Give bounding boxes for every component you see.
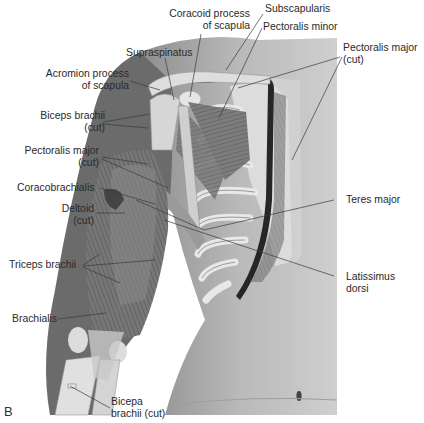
label-line: Acromion process (30, 68, 129, 80)
label-pectoralis-major-cut-right: Pectoralis major (cut) (343, 42, 418, 66)
label-line: Latissimus (346, 271, 395, 283)
label-latissimus-dorsi: Latissimus dorsi (346, 271, 395, 295)
label-line: Pectoralis major (10, 145, 99, 157)
label-line: of scapula (150, 20, 250, 32)
label-pectoralis-minor: Pectoralis minor (263, 21, 338, 33)
label-line: Brachialis (12, 313, 57, 324)
label-pectoralis-major-cut-left: Pectoralis major (cut) (10, 145, 99, 169)
label-line: (cut) (343, 54, 418, 66)
label-teres-major: Teres major (346, 194, 400, 206)
label-line: (cut) (20, 122, 105, 134)
label-brachialis: Brachialis (12, 313, 57, 325)
label-coracobrachialis: Coracobrachialis (17, 182, 94, 194)
label-coracoid-process: Coracoid process of scapula (150, 8, 250, 32)
label-line: Coracobrachialis (17, 182, 94, 193)
label-line: Bicepa (111, 396, 165, 408)
label-line: Pectoralis major (343, 42, 418, 54)
label-line: Teres major (346, 194, 400, 205)
label-line: Pectoralis minor (263, 21, 338, 32)
label-line: Subscapularis (265, 3, 330, 14)
label-biceps-brachii-cut-top: Biceps brachii (cut) (20, 110, 105, 134)
label-acromion-process: Acromion process of scapula (30, 68, 129, 92)
label-line: Coracoid process (150, 8, 250, 20)
panel-letter: B (4, 404, 13, 419)
label-deltoid-cut: Deltoid (cut) (40, 203, 94, 227)
label-line: (cut) (40, 215, 94, 227)
label-line: Supraspinatus (126, 47, 192, 58)
label-subscapularis: Subscapularis (265, 3, 330, 15)
label-biceps-brachii-cut-bottom: Bicepa brachii (cut) (111, 396, 165, 420)
label-supraspinatus: Supraspinatus (126, 47, 192, 59)
label-line: of scapula (30, 80, 129, 92)
label-line: Biceps brachii (20, 110, 105, 122)
label-line: Triceps brachii (9, 259, 76, 270)
label-line: (cut) (10, 157, 99, 169)
label-line: brachii (cut) (111, 408, 165, 420)
navel (296, 391, 301, 401)
label-line: dorsi (346, 283, 395, 295)
label-triceps-brachii: Triceps brachii (9, 259, 76, 271)
label-line: Deltoid (40, 203, 94, 215)
